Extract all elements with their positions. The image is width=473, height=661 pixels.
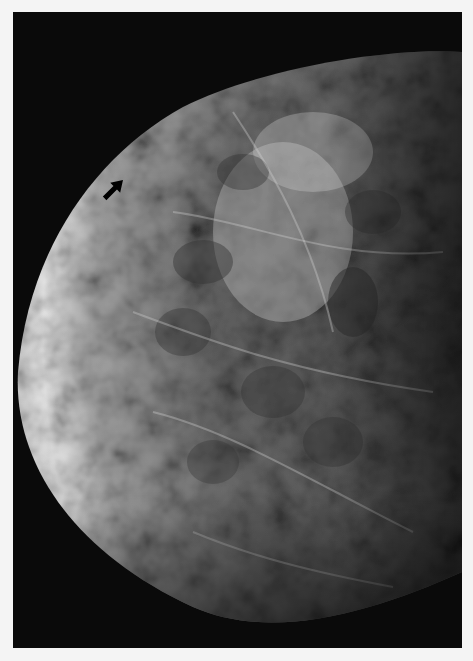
mammogram-film	[13, 12, 462, 648]
breast-xray-image	[13, 12, 462, 648]
breast-tissue	[13, 12, 462, 648]
